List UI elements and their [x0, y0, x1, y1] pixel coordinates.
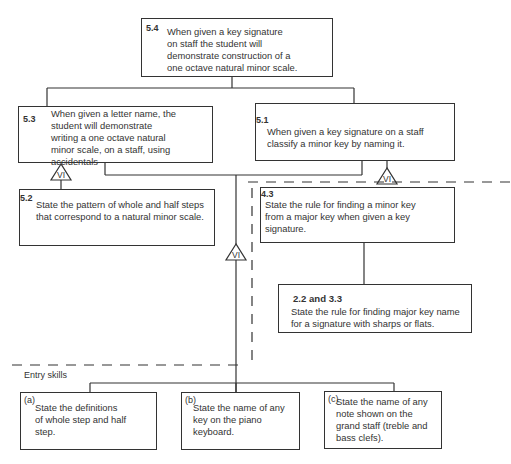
objective-number: 5.3 [23, 114, 36, 124]
objective-text: State the rule for finding major key nam… [291, 306, 471, 330]
entry-skill-box-a: (a) State the definitions of whole step … [20, 392, 157, 450]
objective-text: When given a key signature on a staff cl… [267, 126, 455, 150]
verbal-info-marker-4-3: VI [377, 174, 397, 184]
entry-skill-text: State the name of any key on the piano k… [193, 402, 300, 438]
objective-number: 4.3 [261, 189, 274, 199]
verbal-info-marker-5-2: VI [51, 170, 71, 180]
objective-box-5-1: 5.1 When given a key signature on a staf… [255, 103, 455, 161]
objective-text: When given a letter name, the student wi… [51, 108, 213, 168]
objective-box-5-2: 5.2 State the pattern of whole and half … [19, 189, 215, 246]
entry-skill-letter: (a) [24, 394, 35, 406]
objective-text: State the pattern of whole and half step… [36, 199, 216, 223]
objective-number: 5.1 [256, 115, 269, 125]
objective-text: When given a key signature on staff the … [167, 26, 332, 74]
entry-skill-text: State the name of any note shown on the … [336, 396, 442, 444]
objective-box-5-4: 5.4 When given a key signature on staff … [141, 18, 333, 77]
verbal-info-marker-central: VI [226, 250, 246, 260]
objective-text: State the rule for finding a minor key f… [265, 199, 453, 235]
entry-skills-label: Entry skills [24, 370, 67, 380]
objective-number: 5.2 [20, 193, 33, 203]
entry-skill-box-c: (c) State the name of any note shown on … [324, 391, 442, 449]
entry-skill-box-b: (b) State the name of any key on the pia… [181, 392, 300, 450]
objective-box-5-3: 5.3 When given a letter name, the studen… [18, 106, 213, 163]
objective-number: 5.4 [146, 23, 159, 33]
entry-skill-text: State the definitions of whole step and … [35, 402, 155, 438]
objective-box-4-3: 4.3 State the rule for finding a minor k… [260, 187, 455, 243]
instructional-analysis-diagram: 5.4 When given a key signature on staff … [0, 0, 511, 464]
objective-number: 2.2 and 3.3 [293, 293, 342, 304]
objective-box-2-2-and-3-3: 2.2 and 3.3 State the rule for finding m… [278, 284, 472, 333]
